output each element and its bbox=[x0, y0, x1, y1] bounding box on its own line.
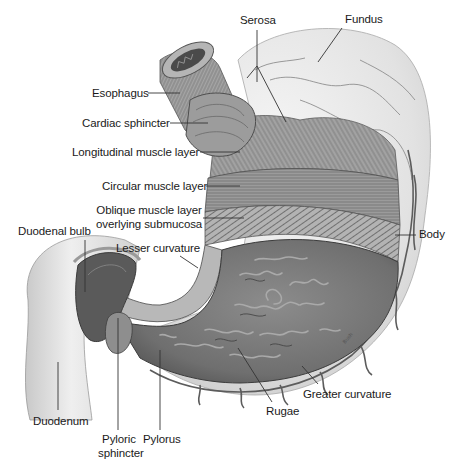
leader-lesser-curvature bbox=[180, 256, 198, 268]
label-oblique-muscle: Oblique muscle layer overlying submucosa bbox=[96, 203, 202, 231]
label-duodenal-bulb: Duodenal bulb bbox=[18, 224, 91, 238]
label-serosa: Serosa bbox=[240, 13, 276, 27]
label-lesser-curvature: Lesser curvature bbox=[116, 241, 200, 255]
label-greater-curvature: Greater curvature bbox=[303, 387, 391, 401]
label-cardiac-sphincter: Cardiac sphincter bbox=[82, 116, 170, 130]
label-esophagus: Esophagus bbox=[92, 86, 149, 100]
label-duodenum: Duodenum bbox=[33, 414, 88, 428]
label-rugae: Rugae bbox=[266, 404, 299, 418]
label-pylorus: Pylorus bbox=[143, 432, 181, 446]
label-longitudinal-muscle: Longitudinal muscle layer bbox=[72, 145, 199, 159]
label-body: Body bbox=[419, 227, 445, 241]
label-fundus: Fundus bbox=[345, 12, 383, 26]
label-pyloric-sphincter: Pyloric sphincter bbox=[98, 432, 140, 460]
label-oblique-line2: overlying submucosa bbox=[96, 217, 202, 231]
label-pyloric-line2: sphincter bbox=[98, 446, 140, 460]
label-pyloric-line1: Pyloric bbox=[98, 432, 140, 446]
label-oblique-line1: Oblique muscle layer bbox=[96, 203, 202, 217]
label-circular-muscle: Circular muscle layer bbox=[102, 179, 207, 193]
pyloric-sphincter-shape bbox=[105, 312, 132, 353]
